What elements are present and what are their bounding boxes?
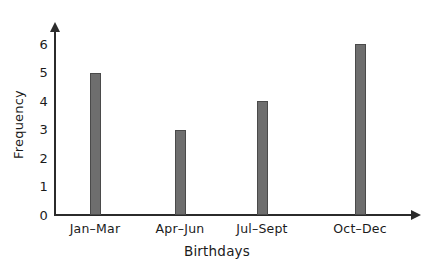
x-axis-tick-label: Oct–Dec — [305, 221, 415, 236]
y-axis-title: Frequency — [11, 80, 26, 170]
y-axis-tick-label: 3 — [30, 123, 48, 136]
y-axis-tick-label: 5 — [30, 66, 48, 79]
y-axis-tick-label: 2 — [30, 152, 48, 165]
y-axis-tick-label: 1 — [30, 180, 48, 193]
bar — [90, 73, 101, 216]
bar — [355, 44, 366, 215]
y-axis-tick-label: 6 — [30, 38, 48, 51]
bar-chart: Frequency 0123456 Birthdays Jan–MarApr–J… — [0, 0, 434, 274]
bar — [175, 130, 186, 216]
x-axis-tick-label: Jul–Sept — [207, 221, 317, 236]
plot-area — [55, 30, 413, 215]
x-axis-title: Birthdays — [0, 243, 434, 259]
y-axis-tick-label: 4 — [30, 95, 48, 108]
bar — [257, 101, 268, 215]
y-axis-tick-label: 0 — [30, 209, 48, 222]
